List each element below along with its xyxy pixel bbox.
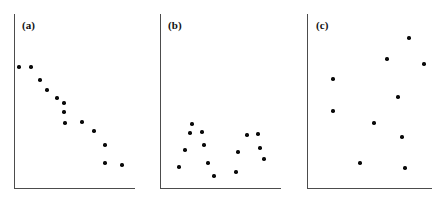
data-point bbox=[331, 77, 334, 80]
data-point bbox=[400, 135, 403, 138]
data-point bbox=[372, 121, 375, 124]
data-point bbox=[407, 36, 410, 39]
scatterplot-figure: (a) (b) (c) bbox=[0, 0, 441, 205]
data-point bbox=[385, 57, 388, 60]
data-point bbox=[396, 95, 399, 98]
data-point bbox=[331, 109, 334, 112]
data-point bbox=[358, 161, 361, 164]
data-point bbox=[403, 166, 406, 169]
data-point bbox=[422, 62, 425, 65]
panel-c-plot-area bbox=[0, 0, 441, 205]
